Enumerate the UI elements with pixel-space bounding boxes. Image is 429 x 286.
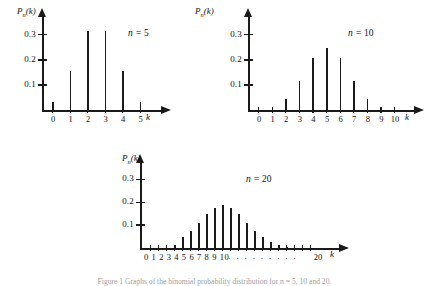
y-tick-label: 0.1 — [210, 79, 242, 89]
x-tick — [190, 245, 191, 251]
bar-stem — [238, 214, 240, 248]
y-tick-label: 0.3 — [210, 29, 242, 39]
x-tick — [174, 245, 175, 251]
bar-stem — [87, 31, 89, 110]
x-axis-arrow — [339, 244, 349, 252]
x-tick — [258, 107, 259, 113]
binomial-distribution-figure: Pn(k) n = 5 k 0.10.20.3012345 Pn(k) n = … — [0, 0, 429, 286]
x-tick — [150, 245, 151, 251]
x-tick — [158, 245, 159, 251]
x-axis-arrow — [414, 106, 424, 114]
x-tick — [312, 107, 313, 113]
bar-stem — [312, 58, 314, 110]
x-tick — [270, 245, 271, 251]
y-tick — [136, 179, 145, 181]
x-tick — [285, 107, 286, 113]
x-tick — [310, 245, 311, 251]
bar-stem — [214, 208, 216, 248]
figure-caption: Figure 1 Graphs of the binomial probabil… — [0, 277, 429, 286]
x-tick — [302, 245, 303, 251]
x-tick — [122, 107, 123, 113]
x-tick — [198, 245, 199, 251]
x-tick-label-ellipsis: · · · · · · · · · — [228, 253, 298, 263]
bar-stem — [326, 48, 328, 110]
y-tick — [38, 84, 47, 86]
x-tick — [380, 107, 381, 113]
bar-stem — [105, 31, 107, 110]
x-axis-arrow — [161, 106, 171, 114]
x-tick — [246, 245, 247, 251]
x-tick — [286, 245, 287, 251]
x-tick — [262, 245, 263, 251]
chart-title-n20: n = 20 — [246, 174, 271, 184]
x-tick — [70, 107, 71, 113]
x-tick — [182, 245, 183, 251]
x-axis-line — [42, 110, 161, 112]
bar-stem — [122, 71, 124, 110]
y-tick — [244, 59, 253, 61]
chart-panel-n20: Pn(k) n = 20 k 0.10.20.30 1 2 3 4 5 6 7 … — [100, 152, 360, 276]
bar-stem — [340, 58, 342, 110]
x-tick — [238, 245, 239, 251]
x-tick-label: 5 — [131, 114, 151, 124]
chart-panel-n5: Pn(k) n = 5 k 0.10.20.3012345 — [0, 0, 215, 143]
bar-stem — [299, 81, 301, 110]
x-tick-label-group: 0 1 2 3 4 5 6 7 8 9 10 — [144, 252, 234, 262]
y-axis-line — [140, 162, 142, 248]
y-tick — [136, 202, 145, 204]
x-tick — [254, 245, 255, 251]
x-tick — [353, 107, 354, 113]
x-tick-label: 10 — [385, 114, 405, 124]
y-tick — [244, 84, 253, 86]
x-tick — [222, 245, 223, 251]
x-tick — [87, 107, 88, 113]
x-tick — [367, 107, 368, 113]
x-tick — [299, 107, 300, 113]
x-tick — [105, 107, 106, 113]
y-axis-line — [42, 16, 44, 110]
y-tick — [38, 34, 47, 36]
x-axis-line — [248, 110, 414, 112]
x-axis-title: k — [405, 112, 409, 122]
bar-stem — [70, 71, 72, 110]
y-axis-arrow — [38, 8, 46, 17]
y-axis-arrow — [244, 8, 252, 17]
y-tick — [244, 34, 253, 36]
x-tick — [214, 245, 215, 251]
y-axis-line — [248, 16, 250, 110]
chart-panel-n10: Pn(k) n = 10 k 0.10.20.3012345678910 — [215, 0, 429, 143]
x-tick — [340, 107, 341, 113]
x-tick — [278, 245, 279, 251]
x-tick — [206, 245, 207, 251]
bar-stem — [206, 214, 208, 248]
y-tick — [38, 59, 47, 61]
bar-stem — [230, 208, 232, 248]
x-tick — [294, 245, 295, 251]
x-tick-label-end: 20 — [308, 252, 328, 262]
bar-stem — [353, 81, 355, 110]
y-tick-label: 0.2 — [210, 54, 242, 64]
y-tick-label: 0.3 — [102, 173, 134, 183]
y-tick-label: 0.1 — [4, 79, 36, 89]
x-tick — [272, 107, 273, 113]
x-tick — [326, 107, 327, 113]
y-tick — [136, 224, 145, 226]
bar-stem — [222, 205, 224, 248]
x-tick — [140, 107, 141, 113]
x-axis-title: k — [330, 249, 334, 259]
chart-title-n10: n = 10 — [348, 28, 373, 38]
chart-title-n5: n = 5 — [128, 28, 149, 38]
y-tick-label: 0.2 — [4, 54, 36, 64]
y-axis-arrow — [136, 154, 144, 163]
y-axis-title: Pn(k) — [17, 6, 36, 18]
x-tick — [52, 107, 53, 113]
x-tick — [394, 107, 395, 113]
x-tick — [166, 245, 167, 251]
y-axis-title: Pn(k) — [195, 6, 214, 18]
y-tick-label: 0.1 — [102, 219, 134, 229]
y-tick-label: 0.3 — [4, 29, 36, 39]
y-tick-label: 0.2 — [102, 196, 134, 206]
x-tick — [230, 245, 231, 251]
